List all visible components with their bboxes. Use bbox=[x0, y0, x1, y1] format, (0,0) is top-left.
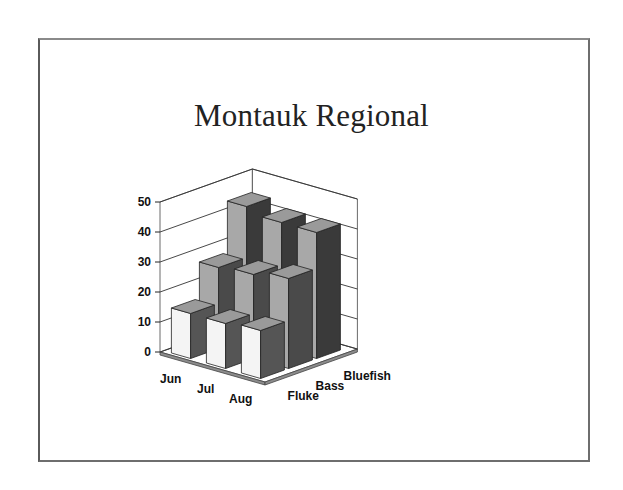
bar-fluke-jun-front bbox=[171, 308, 190, 359]
depth-series-label-bluefish: Bluefish bbox=[344, 369, 391, 383]
bar-bass-aug-side bbox=[289, 270, 313, 369]
y-tick-label: 40 bbox=[138, 225, 152, 239]
bar-fluke-aug-side bbox=[261, 322, 285, 379]
bar-fluke-jul-front bbox=[206, 318, 225, 369]
bar-bluefish-aug-side bbox=[317, 224, 341, 359]
x-category-label-jun: Jun bbox=[160, 372, 181, 386]
x-category-label-jul: Jul bbox=[197, 382, 214, 396]
x-category-label-aug: Aug bbox=[229, 392, 252, 406]
y-tick-label: 30 bbox=[138, 255, 152, 269]
y-tick-label: 50 bbox=[138, 195, 152, 209]
y-tick-label: 10 bbox=[138, 315, 152, 329]
depth-series-label-bass: Bass bbox=[316, 379, 345, 393]
chart-3d-column: 01020304050JunJulAugFlukeBassBluefish bbox=[0, 0, 623, 490]
bar-fluke-aug-front bbox=[241, 325, 260, 379]
y-tick-label: 0 bbox=[144, 345, 151, 359]
depth-series-label-fluke: Fluke bbox=[288, 389, 320, 403]
y-tick-label: 20 bbox=[138, 285, 152, 299]
